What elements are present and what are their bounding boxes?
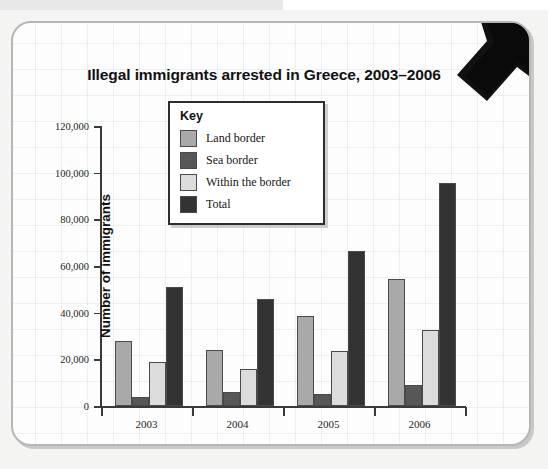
x-axis-group-label: 2003 (136, 418, 158, 430)
bar (257, 299, 274, 406)
legend-item: Within the border (180, 171, 315, 193)
y-axis-tick-label: 60,000 (60, 261, 89, 272)
y-axis-tick-label: 120,000 (55, 121, 89, 132)
x-axis-separator (374, 407, 376, 416)
y-axis-title: Number of immigrants (98, 194, 113, 338)
y-axis-tick-label: 40,000 (60, 307, 89, 318)
legend-item-label: Within the border (206, 175, 291, 190)
legend-item-label: Sea border (206, 153, 258, 168)
x-axis-title: Year (101, 444, 465, 446)
x-axis-group-label: 2005 (318, 418, 340, 430)
legend-rows: Land borderSea borderWithin the borderTo… (180, 127, 315, 215)
chart-card: Illegal immigrants arrested in Greece, 2… (11, 21, 531, 446)
legend-item-label: Land border (206, 131, 265, 146)
legend-item: Total (180, 193, 315, 215)
bar (115, 341, 132, 406)
bar (439, 183, 456, 406)
y-axis-tick (94, 406, 101, 408)
y-axis-tick-label: 80,000 (60, 214, 89, 225)
bar (206, 350, 223, 406)
bar (331, 351, 348, 406)
legend-item: Sea border (180, 149, 315, 171)
x-axis-group-label: 2004 (227, 418, 249, 430)
legend-title: Key (180, 109, 315, 123)
legend-swatch (180, 152, 197, 169)
bar (166, 287, 183, 406)
bar (149, 362, 166, 406)
bar (223, 392, 240, 406)
y-axis-tick (94, 126, 101, 128)
legend-swatch (180, 174, 197, 191)
bar (132, 397, 149, 406)
y-axis-tick-label: 20,000 (60, 354, 89, 365)
x-axis-group-label: 2006 (409, 418, 431, 430)
x-axis-separator (101, 407, 103, 416)
x-axis-separator (192, 407, 194, 416)
bar (297, 316, 314, 406)
legend-item-label: Total (206, 197, 231, 212)
legend-swatch (180, 130, 197, 147)
bar (422, 330, 439, 406)
bar (240, 369, 257, 406)
y-axis-tick (94, 359, 101, 361)
x-axis-separator (465, 407, 467, 416)
chart-legend: Key Land borderSea borderWithin the bord… (168, 101, 325, 225)
bar (388, 279, 405, 406)
bar (348, 251, 365, 406)
y-axis-tick-label: 100,000 (55, 167, 89, 178)
chart-title: Illegal immigrants arrested in Greece, 2… (13, 66, 529, 84)
bar (314, 394, 331, 406)
y-axis-tick (94, 173, 101, 175)
legend-swatch (180, 196, 197, 213)
legend-item: Land border (180, 127, 315, 149)
x-axis-separator (283, 407, 285, 416)
y-axis-tick-label: 0 (84, 401, 89, 412)
bar (405, 385, 422, 406)
